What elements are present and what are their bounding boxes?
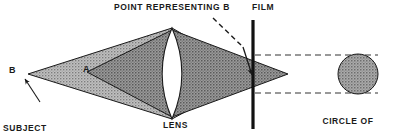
label-subject-line-1: SUBJECT xyxy=(3,124,79,134)
label-subject-focused-upon: SUBJECT FOCUSED UPON xyxy=(3,105,79,138)
leader-dashed-point-b xyxy=(213,18,243,47)
light-cone-a-right xyxy=(172,30,288,117)
label-point-b: B xyxy=(9,65,16,75)
label-point-a: A xyxy=(83,64,90,74)
label-point-representing-b: POINT REPRESENTING B xyxy=(114,3,230,13)
label-lens: LENS xyxy=(163,121,188,131)
diagram-canvas: POINT REPRESENTING B FILM LENS B A SUBJE… xyxy=(0,0,400,138)
label-circle-line-1: CIRCLE OF xyxy=(300,117,396,127)
leader-arrow-subject xyxy=(25,79,40,102)
label-film: FILM xyxy=(252,3,274,13)
circle-of-confusion xyxy=(338,54,378,94)
label-circle-of-confusion: CIRCLE OF CONFUSION REPRESENTING POINT A xyxy=(300,98,396,138)
